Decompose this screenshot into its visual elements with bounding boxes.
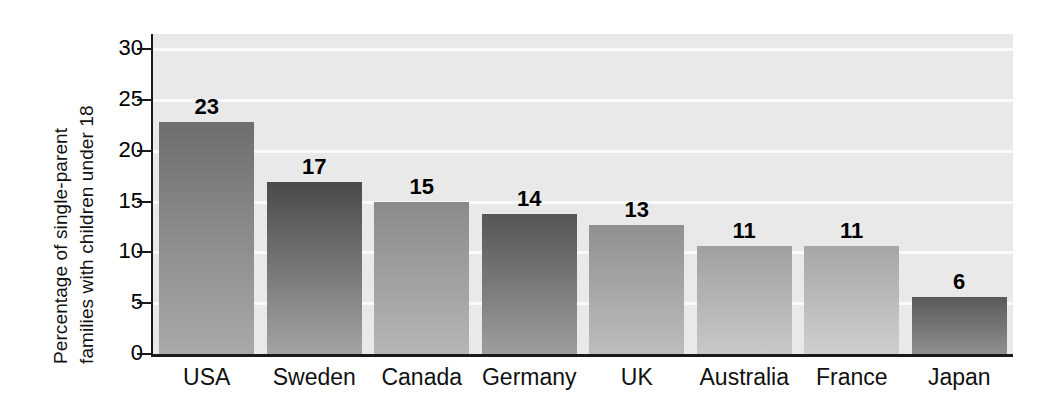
y-tick-mark [137,302,152,304]
x-tick-label-sweden: Sweden [261,360,369,394]
bar-value-label: 17 [267,154,362,180]
bar-value-label: 14 [482,186,577,212]
bar-uk: 13 [589,225,684,354]
y-tick-label-15: 15 [95,190,143,212]
bar-chart: Percentage of single-parent families wit… [0,0,1059,413]
bar-australia: 11 [697,246,792,354]
y-tick-label-25: 25 [95,88,143,110]
bar-value-label: 6 [912,269,1007,295]
bar-france: 11 [804,246,899,354]
y-tick-mark [137,251,152,253]
x-tick-label-japan: Japan [906,360,1014,394]
x-tick-label-australia: Australia [691,360,799,394]
x-tick-label-uk: UK [583,360,691,394]
y-axis-title-line-1: Percentage of single-parent [50,128,72,364]
y-axis-tick-labels: 051015202530 [95,0,143,413]
bar-value-label: 23 [159,94,254,120]
bar-value-label: 15 [374,174,469,200]
y-tick-label-20: 20 [95,139,143,161]
bar-value-label: 11 [697,218,792,244]
x-tick-label-canada: Canada [368,360,476,394]
y-tick-label-30: 30 [95,37,143,59]
y-tick-label-10: 10 [95,240,143,262]
x-tick-label-usa: USA [153,360,261,394]
bar-japan: 6 [912,297,1007,354]
x-tick-label-germany: Germany [476,360,584,394]
y-axis-title: Percentage of single-parent families wit… [0,0,96,413]
x-tick-label-france: France [798,360,906,394]
bar-value-label: 11 [804,218,899,244]
bar-usa: 23 [159,122,254,354]
bar-sweden: 17 [267,182,362,354]
y-tick-mark [137,353,152,355]
bar-value-label: 13 [589,197,684,223]
y-tick-label-5: 5 [95,291,143,313]
y-tick-mark [137,99,152,101]
y-tick-mark [137,48,152,50]
bar-germany: 14 [482,214,577,354]
plot-area: 231715141311116 [153,34,1013,354]
x-axis-line [151,354,1013,357]
x-axis-tick-labels: USASwedenCanadaGermanyUKAustraliaFranceJ… [153,360,1013,400]
bar-canada: 15 [374,202,469,354]
y-tick-mark [137,150,152,152]
y-tick-label-0: 0 [95,342,143,364]
y-tick-mark [137,201,152,203]
bars-group: 231715141311116 [153,34,1013,354]
